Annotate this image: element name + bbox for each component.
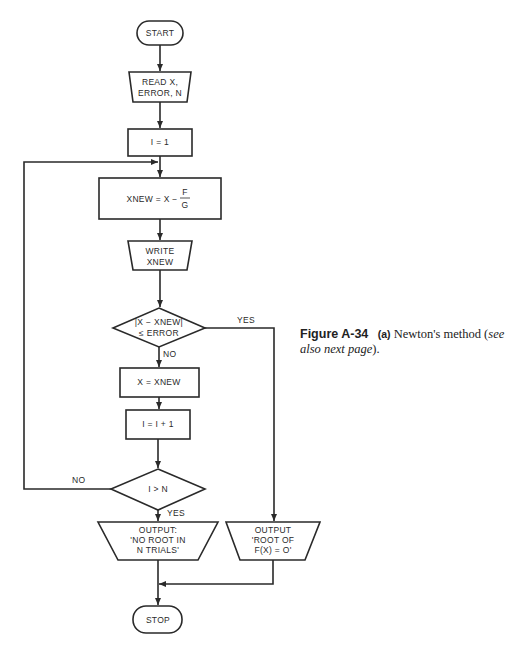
iteration-limit-decision: I > N xyxy=(111,469,205,510)
svg-text:ERROR, N: ERROR, N xyxy=(138,88,182,98)
figure-caption: Figure A-34 (a) Newton's method (see als… xyxy=(300,327,520,357)
svg-text:|X − XNEW|: |X − XNEW| xyxy=(135,317,183,327)
svg-text:XNEW = X −: XNEW = X − xyxy=(126,194,177,204)
svg-text:XNEW: XNEW xyxy=(147,257,174,267)
caption-end: ). xyxy=(372,342,379,356)
caption-text: Newton's method ( xyxy=(394,327,489,341)
no-label-1: NO xyxy=(163,349,176,359)
init-process-box: I = 1 xyxy=(128,129,192,156)
svg-text:G: G xyxy=(182,200,189,210)
svg-text:'ROOT OF: 'ROOT OF xyxy=(252,535,295,545)
root-found-output-box: OUTPUT 'ROOT OF F(X) = O' xyxy=(226,522,320,560)
arrow-yes-success xyxy=(205,328,274,521)
svg-text:OUTPUT: OUTPUT xyxy=(255,525,292,535)
convergence-decision: |X − XNEW| ≤ ERROR xyxy=(113,308,205,347)
svg-text:N TRIALS': N TRIALS' xyxy=(137,545,180,555)
yes-label-1: YES xyxy=(237,315,255,325)
start-terminal: START xyxy=(137,21,183,45)
svg-text:I = 1: I = 1 xyxy=(151,137,169,147)
no-label-2: NO xyxy=(72,475,85,485)
figure-part: (a) xyxy=(378,328,391,340)
stop-terminal: STOP xyxy=(133,606,182,633)
yes-label-2: YES xyxy=(167,508,185,518)
svg-text:I = I + 1: I = I + 1 xyxy=(142,419,174,429)
svg-text:F(X) = O': F(X) = O' xyxy=(254,545,291,555)
flowchart: START READ X, ERROR, N I = 1 XNEW = X − … xyxy=(0,0,525,651)
svg-text:WRITE: WRITE xyxy=(146,246,175,256)
no-root-output-box: OUTPUT: 'NO ROOT IN N TRIALS' xyxy=(98,522,218,560)
figure-number: Figure A-34 xyxy=(300,327,368,341)
svg-text:OUTPUT:: OUTPUT: xyxy=(139,525,177,535)
increment-process-box: I = I + 1 xyxy=(126,410,190,439)
svg-text:STOP: STOP xyxy=(146,615,170,625)
compute-process-box: XNEW = X − F G xyxy=(99,178,221,219)
svg-text:≤ ERROR: ≤ ERROR xyxy=(139,328,179,338)
write-output-box: WRITE XNEW xyxy=(128,241,192,270)
read-input-box: READ X, ERROR, N xyxy=(129,72,191,102)
svg-text:X = XNEW: X = XNEW xyxy=(137,377,180,387)
assign-process-box: X = XNEW xyxy=(120,368,199,397)
svg-text:'NO ROOT IN: 'NO ROOT IN xyxy=(130,535,185,545)
arrow-success-merge xyxy=(159,560,273,584)
svg-text:F: F xyxy=(182,187,188,197)
svg-text:READ X,: READ X, xyxy=(142,77,178,87)
svg-text:I > N: I > N xyxy=(148,484,168,494)
svg-text:START: START xyxy=(146,28,175,38)
